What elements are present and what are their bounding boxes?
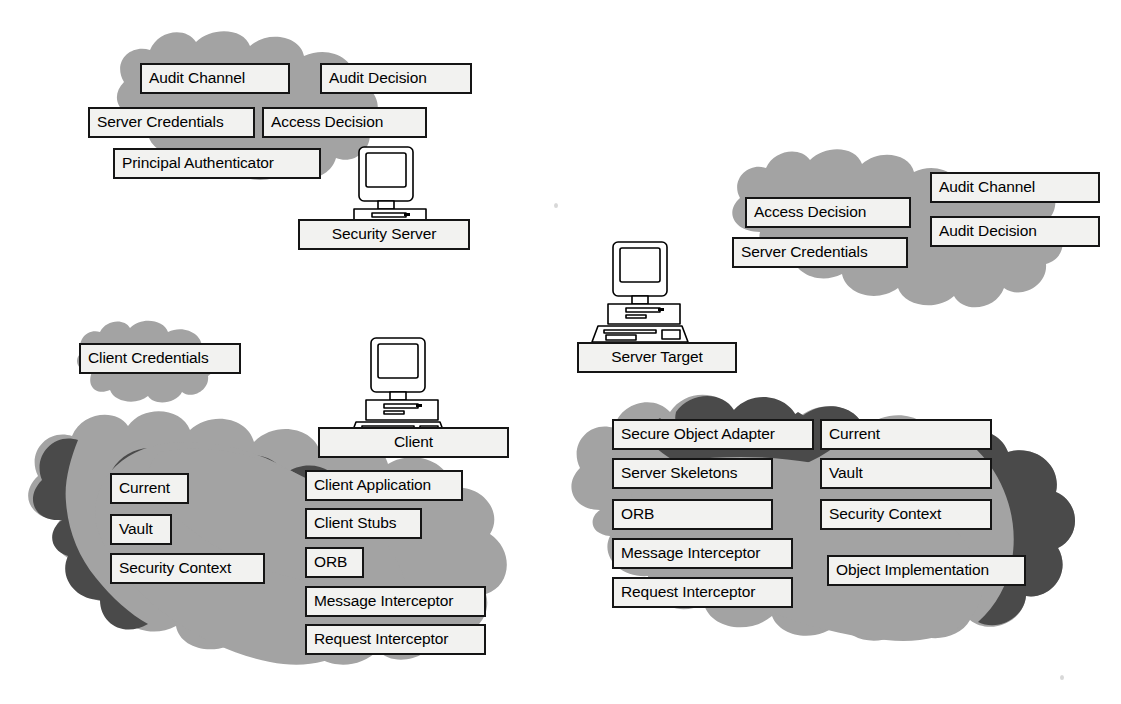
label-client-current[interactable]: Current (110, 473, 189, 504)
label-client-request-interceptor[interactable]: Request Interceptor (305, 624, 486, 655)
label-server-vault[interactable]: Vault (820, 458, 992, 489)
label-access-decision[interactable]: Access Decision (262, 107, 427, 138)
label-server-current[interactable]: Current (820, 419, 992, 450)
label-client-security-context[interactable]: Security Context (110, 553, 265, 584)
label-client-application[interactable]: Client Application (305, 470, 463, 501)
label-audit-decision-server[interactable]: Audit Decision (930, 216, 1100, 247)
label-audit-channel[interactable]: Audit Channel (140, 63, 290, 94)
label-secure-object-adapter[interactable]: Secure Object Adapter (612, 419, 814, 450)
label-server-target[interactable]: Server Target (577, 342, 737, 373)
label-security-server[interactable]: Security Server (298, 219, 470, 250)
label-access-decision-server[interactable]: Access Decision (745, 197, 911, 228)
label-server-credentials[interactable]: Server Credentials (88, 107, 255, 138)
label-client-vault[interactable]: Vault (110, 514, 172, 545)
label-server-message-interceptor[interactable]: Message Interceptor (612, 538, 793, 569)
paper-speck (554, 203, 558, 208)
label-client-message-interceptor[interactable]: Message Interceptor (305, 586, 486, 617)
label-server-orb[interactable]: ORB (612, 499, 773, 530)
diagram-canvas: Audit Channel Audit Decision Server Cred… (0, 0, 1121, 704)
label-server-security-context[interactable]: Security Context (820, 499, 992, 530)
label-client-stubs[interactable]: Client Stubs (305, 508, 422, 539)
label-client-credentials[interactable]: Client Credentials (79, 343, 241, 374)
paper-speck (1060, 675, 1064, 680)
label-server-credentials-server[interactable]: Server Credentials (732, 237, 908, 268)
label-audit-decision[interactable]: Audit Decision (320, 63, 472, 94)
label-object-implementation[interactable]: Object Implementation (827, 555, 1026, 586)
label-server-skeletons[interactable]: Server Skeletons (612, 458, 773, 489)
label-client-orb[interactable]: ORB (305, 547, 364, 578)
label-audit-channel-server[interactable]: Audit Channel (930, 172, 1100, 203)
server-target-computer-icon (588, 238, 692, 350)
label-server-request-interceptor[interactable]: Request Interceptor (612, 577, 793, 608)
label-principal-authenticator[interactable]: Principal Authenticator (113, 148, 321, 179)
label-client[interactable]: Client (318, 427, 509, 458)
